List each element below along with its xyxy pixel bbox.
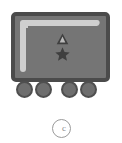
wagon-symbols <box>15 16 106 78</box>
warning-triangle-icon <box>56 33 69 45</box>
star-icon <box>55 47 70 61</box>
wagon-graphic <box>0 0 122 105</box>
wagon-wheel-3 <box>61 81 78 98</box>
circle-badge: c <box>52 119 71 138</box>
wagon-wheel-2 <box>35 81 52 98</box>
wagon-body <box>11 12 110 82</box>
wagon-wheel-4 <box>80 81 97 98</box>
circle-badge-glyph: c <box>62 124 66 133</box>
wagon-body-panel <box>15 16 106 78</box>
graphic-canvas: c <box>0 0 122 143</box>
wagon-wheel-1 <box>16 81 33 98</box>
